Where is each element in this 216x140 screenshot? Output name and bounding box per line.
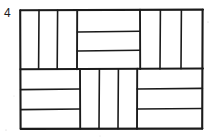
bottom-left-block-bars	[21, 89, 81, 110]
bottom-right-block-bars	[137, 88, 202, 109]
top-middle-block-bars	[77, 31, 140, 51]
parquet-pattern-drawing	[0, 0, 216, 140]
top-right-block-bars	[160, 10, 181, 69]
top-left-block-bars	[39, 10, 58, 69]
figure-canvas: 4	[0, 0, 216, 140]
paper-noise	[6, 22, 209, 137]
block-divider-lines	[20, 10, 203, 129]
bottom-middle-block-bars	[99, 69, 118, 129]
